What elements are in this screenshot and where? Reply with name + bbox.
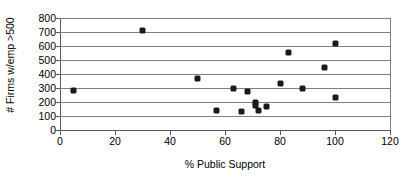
plot-right-border	[390, 18, 391, 130]
x-tick-mark-20	[115, 131, 116, 135]
x-axis-tick-labels: 020406080100120	[0, 136, 409, 152]
y-tick-mark-500	[55, 60, 60, 61]
y-tick-mark-400	[55, 74, 60, 75]
y-tick-label-600: 600	[22, 41, 56, 52]
gridline-y-600	[60, 46, 390, 47]
gridline-y-500	[60, 60, 390, 61]
y-tick-mark-300	[55, 88, 60, 89]
data-point	[300, 86, 305, 91]
x-tick-label-20: 20	[95, 136, 135, 147]
y-tick-label-300: 300	[22, 83, 56, 94]
y-tick-label-800: 800	[22, 13, 56, 24]
gridline-y-700	[60, 32, 390, 33]
x-tick-label-100: 100	[315, 136, 355, 147]
x-tick-label-80: 80	[260, 136, 300, 147]
x-tick-label-60: 60	[205, 136, 245, 147]
data-point	[264, 104, 269, 109]
x-tick-mark-0	[60, 131, 61, 135]
y-tick-label-200: 200	[22, 97, 56, 108]
x-tick-mark-60	[225, 131, 226, 135]
y-tick-mark-200	[55, 102, 60, 103]
x-tick-label-0: 0	[40, 136, 80, 147]
data-point	[214, 108, 219, 113]
y-tick-label-400: 400	[22, 69, 56, 80]
gridline-y-800	[60, 18, 390, 19]
y-tick-mark-800	[55, 18, 60, 19]
gridline-y-400	[60, 74, 390, 75]
y-tick-label-0: 0	[22, 125, 56, 136]
gridline-y-300	[60, 88, 390, 89]
scatter-chart: # Firms w/emp >500 010020030040050060070…	[0, 0, 409, 184]
x-tick-mark-80	[280, 131, 281, 135]
data-point	[231, 86, 236, 91]
data-point	[71, 88, 76, 93]
y-tick-mark-100	[55, 116, 60, 117]
y-tick-mark-700	[55, 32, 60, 33]
y-tick-mark-600	[55, 46, 60, 47]
data-point	[195, 76, 200, 81]
data-point	[256, 108, 261, 113]
y-axis-title-text: # Firms w/emp >500	[4, 17, 16, 112]
data-point	[245, 89, 250, 94]
data-point	[239, 109, 244, 114]
data-point	[140, 28, 145, 33]
y-tick-label-500: 500	[22, 55, 56, 66]
x-tick-label-120: 120	[370, 136, 409, 147]
data-point	[333, 41, 338, 46]
y-tick-label-700: 700	[22, 27, 56, 38]
gridline-y-100	[60, 116, 390, 117]
x-tick-label-40: 40	[150, 136, 190, 147]
y-axis-title: # Firms w/emp >500	[0, 0, 20, 130]
y-axis-tick-labels: 0100200300400500600700800	[20, 0, 56, 184]
y-tick-label-100: 100	[22, 111, 56, 122]
data-point	[322, 65, 327, 70]
data-point	[278, 81, 283, 86]
gridline-y-200	[60, 102, 390, 103]
x-tick-mark-40	[170, 131, 171, 135]
x-tick-mark-100	[335, 131, 336, 135]
plot-area	[60, 18, 390, 130]
data-point	[286, 50, 291, 55]
data-point	[333, 95, 338, 100]
x-axis-title: % Public Support	[60, 158, 390, 170]
x-tick-mark-120	[390, 131, 391, 135]
